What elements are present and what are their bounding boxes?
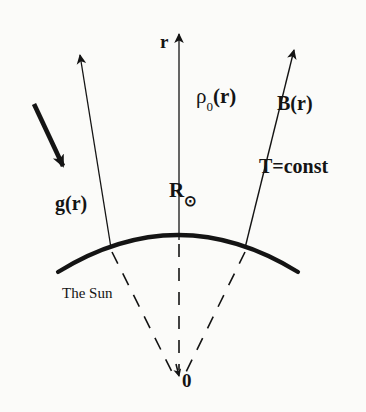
sun-symbol-icon: ⊙ [184, 193, 197, 209]
solar-radius-label: R⊙ [169, 180, 197, 205]
density-subscript: 0 [206, 99, 213, 114]
temperature-label: T=const [259, 156, 328, 176]
density-argument: (r) [213, 84, 236, 108]
dashed-radius-right [186, 252, 245, 372]
magnetic-field-label: B(r) [277, 93, 313, 113]
origin-label: 0 [182, 371, 192, 390]
left-field-line-arrow [80, 55, 111, 248]
solar-surface-arc [58, 235, 298, 272]
body-caption-label: The Sun [62, 286, 112, 301]
density-label: ρ0(r) [196, 86, 236, 110]
radial-vector-label: r [160, 32, 168, 51]
density-symbol: ρ [196, 84, 206, 108]
solar-atmosphere-figure: r ρ0(r) B(r) T=const g(r) R⊙ The Sun 0 [0, 0, 366, 412]
dashed-radius-left [112, 252, 172, 372]
right-field-line-arrow [245, 50, 294, 248]
solar-radius-symbol-R: R [169, 178, 184, 202]
gravity-vector-arrow [34, 104, 63, 166]
gravity-label: g(r) [55, 193, 87, 213]
